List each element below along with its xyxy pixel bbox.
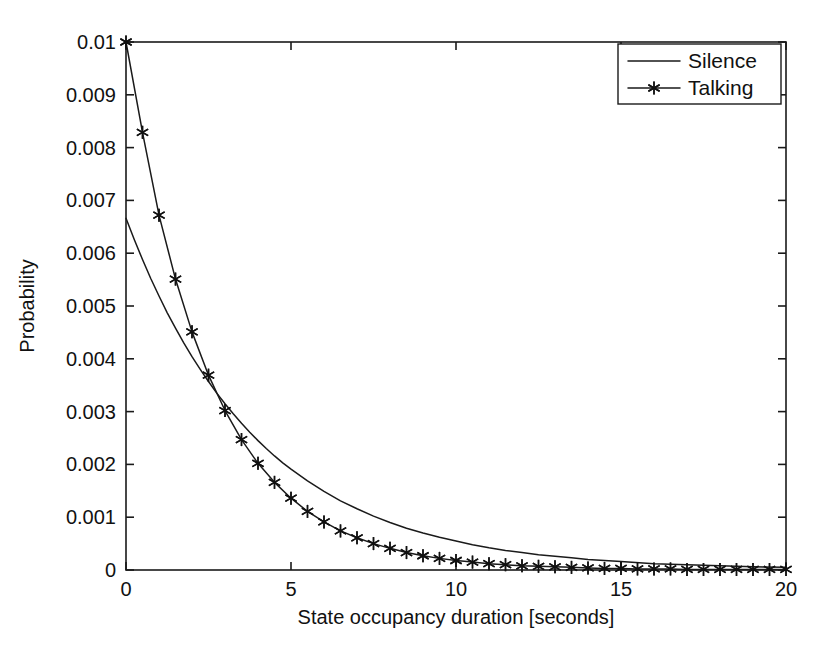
y-tick-label: 0.009 bbox=[66, 84, 116, 106]
y-tick-label: 0.006 bbox=[66, 242, 116, 264]
x-tick-label: 10 bbox=[445, 578, 467, 600]
legend-label: Silence bbox=[688, 49, 757, 72]
y-tick-label: 0 bbox=[105, 559, 116, 581]
x-tick-label: 5 bbox=[285, 578, 296, 600]
x-tick-label: 0 bbox=[120, 578, 131, 600]
x-tick-label: 15 bbox=[610, 578, 632, 600]
figure-container: 00.0010.0020.0030.0040.0050.0060.0070.00… bbox=[0, 0, 823, 657]
probability-line-chart: 00.0010.0020.0030.0040.0050.0060.0070.00… bbox=[0, 0, 823, 657]
y-tick-label: 0.007 bbox=[66, 189, 116, 211]
y-tick-label: 0.008 bbox=[66, 137, 116, 159]
legend-label: Talking bbox=[688, 76, 753, 99]
y-tick-label: 0.001 bbox=[66, 506, 116, 528]
y-tick-label: 0.01 bbox=[77, 31, 116, 53]
y-axis-title: Probability bbox=[16, 259, 38, 352]
chart-legend[interactable]: SilenceTalking bbox=[618, 44, 781, 104]
y-tick-label: 0.005 bbox=[66, 295, 116, 317]
y-tick-label: 0.004 bbox=[66, 348, 116, 370]
x-tick-label: 20 bbox=[775, 578, 797, 600]
x-axis-title: State occupancy duration [seconds] bbox=[298, 606, 615, 628]
y-tick-label: 0.003 bbox=[66, 401, 116, 423]
y-tick-label: 0.002 bbox=[66, 453, 116, 475]
